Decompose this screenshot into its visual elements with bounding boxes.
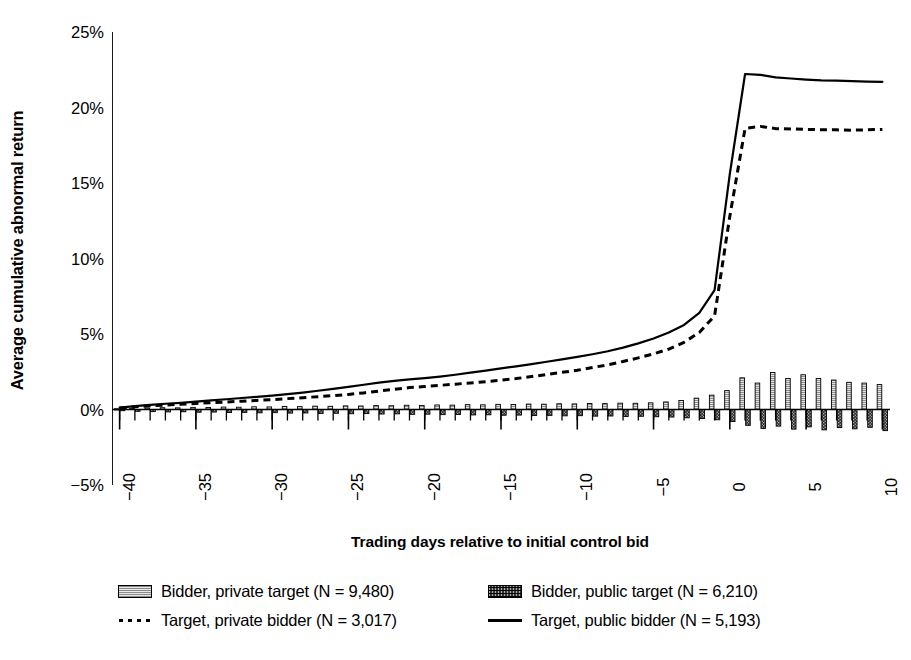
legend-swatch-dark-bar — [488, 585, 522, 598]
bar — [862, 383, 867, 409]
legend-label: Bidder, public target (N = 6,210) — [531, 582, 758, 601]
y-tick-label: 0% — [46, 402, 104, 419]
bar — [410, 410, 415, 415]
chart-figure: Average cumulative abnormal return 25%20… — [0, 0, 911, 660]
x-tick-label: 5 — [797, 487, 815, 533]
bar — [831, 380, 836, 409]
bar — [526, 404, 531, 409]
chart-canvas — [112, 32, 890, 485]
bar — [481, 405, 486, 410]
bar — [801, 375, 806, 410]
bar — [730, 410, 735, 422]
bar — [511, 405, 516, 410]
bar — [725, 391, 730, 410]
solid-series-line — [120, 74, 883, 408]
bar — [746, 410, 751, 426]
bar — [755, 383, 760, 409]
x-tick-label: −35 — [187, 487, 205, 533]
bar — [770, 373, 775, 410]
x-tick-label: −30 — [263, 487, 281, 533]
bar — [761, 410, 766, 429]
bar — [852, 410, 857, 429]
bar — [465, 405, 470, 410]
legend-label: Bidder, private target (N = 9,480) — [161, 582, 394, 601]
y-axis-tick-labels: 25%20%15%10%5%0%−5% — [34, 0, 104, 500]
legend-item[interactable]: Target, private bidder (N = 3,017) — [118, 607, 488, 634]
bar — [517, 410, 522, 416]
legend-swatch-dashed-line — [118, 614, 152, 627]
bar — [532, 410, 537, 416]
axes-group — [112, 32, 890, 485]
bar — [471, 410, 476, 415]
bar — [679, 400, 684, 409]
bar — [715, 410, 720, 420]
bar — [486, 410, 491, 415]
bar — [441, 410, 446, 415]
bar — [502, 410, 507, 416]
legend-row: Bidder, private target (N = 9,480)Bidder… — [118, 578, 898, 605]
bar — [557, 404, 562, 410]
bar — [542, 404, 547, 409]
bar — [608, 410, 613, 416]
bar — [496, 404, 501, 409]
bar — [563, 410, 568, 416]
bar — [572, 404, 577, 410]
bar — [664, 402, 669, 410]
x-tick-label: −40 — [111, 487, 129, 533]
bar — [578, 410, 583, 416]
x-tick-label: 0 — [721, 487, 739, 533]
x-tick-label: −25 — [339, 487, 357, 533]
bar — [816, 379, 821, 410]
y-tick-label: 5% — [46, 326, 104, 343]
bar — [847, 382, 852, 409]
bar — [648, 403, 653, 410]
y-tick-label: 25% — [46, 24, 104, 41]
bar — [639, 410, 644, 417]
bar — [868, 410, 873, 428]
legend-label: Target, private bidder (N = 3,017) — [161, 611, 397, 630]
x-tick-label: 10 — [873, 487, 891, 533]
y-tick-label: 10% — [46, 251, 104, 268]
bar — [740, 378, 745, 410]
legend-swatch-light-bar — [118, 585, 152, 598]
bar — [456, 410, 461, 415]
x-tick-label: −20 — [416, 487, 434, 533]
bar — [709, 395, 714, 409]
bar — [669, 410, 674, 418]
bar — [425, 410, 430, 415]
y-axis-title: Average cumulative abnormal return — [0, 0, 36, 500]
bar — [654, 410, 659, 417]
chart-legend: Bidder, private target (N = 9,480)Bidder… — [118, 578, 898, 640]
bar — [791, 410, 796, 430]
x-tick-label: −10 — [568, 487, 586, 533]
bar — [633, 403, 638, 409]
bar — [776, 410, 781, 427]
y-tick-label: 15% — [46, 175, 104, 192]
bar — [547, 410, 552, 416]
legend-row: Target, private bidder (N = 3,017)Target… — [118, 607, 898, 634]
bar — [807, 410, 812, 427]
bar — [593, 410, 598, 417]
legend-item[interactable]: Target, public bidder (N = 5,193) — [488, 607, 761, 634]
x-tick-label: −15 — [492, 487, 510, 533]
x-tick-label: −5 — [645, 487, 663, 533]
x-axis-title-text: Trading days relative to initial control… — [351, 533, 649, 550]
y-tick-label: 20% — [46, 100, 104, 117]
bar — [694, 398, 699, 409]
x-axis-tick-labels: −40−35−30−25−20−15−10−50510 — [112, 487, 902, 533]
y-tick-label: −5% — [46, 477, 104, 494]
legend-item[interactable]: Bidder, private target (N = 9,480) — [118, 578, 488, 605]
dashed-series-line — [120, 126, 883, 408]
bar — [587, 403, 592, 409]
legend-label: Target, public bidder (N = 5,193) — [531, 611, 761, 630]
bar — [837, 410, 842, 428]
bar — [624, 410, 629, 417]
bar — [786, 379, 791, 410]
bar — [877, 385, 882, 410]
x-axis-title: Trading days relative to initial control… — [110, 533, 890, 551]
bar — [685, 410, 690, 418]
legend-item[interactable]: Bidder, public target (N = 6,210) — [488, 578, 758, 605]
plot-area — [112, 32, 890, 485]
bar — [883, 410, 888, 431]
bar — [700, 410, 705, 419]
